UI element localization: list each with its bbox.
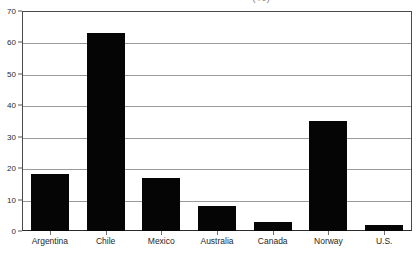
x-tick-mark (161, 231, 162, 235)
bar-chart-figure: (%) 010203040506070 ArgentinaChileMexico… (0, 0, 416, 259)
x-tick-mark (273, 231, 274, 235)
bar (198, 206, 236, 231)
bar-slot (189, 11, 245, 231)
bar (87, 33, 125, 231)
x-axis: ArgentinaChileMexicoAustraliaCanadaNorwa… (22, 236, 412, 256)
bar (309, 121, 347, 231)
bar (31, 174, 69, 231)
x-tick-label: Norway (314, 236, 343, 246)
bar-slot (356, 11, 412, 231)
x-tick-label: Canada (258, 236, 288, 246)
bar (254, 222, 292, 231)
x-tick-label: Chile (96, 236, 115, 246)
x-tick-mark (384, 231, 385, 235)
bar-slot (22, 11, 78, 231)
y-axis: 010203040506070 (0, 11, 22, 231)
y-tick-label: 30 (7, 132, 16, 141)
y-tick-label: 10 (7, 195, 16, 204)
bar-slot (301, 11, 357, 231)
y-tick-label: 70 (7, 7, 16, 16)
y-tick-label: 40 (7, 101, 16, 110)
y-tick-label: 20 (7, 164, 16, 173)
x-tick-label: Mexico (148, 236, 175, 246)
bar-slot (245, 11, 301, 231)
x-tick-label: Australia (200, 236, 233, 246)
y-tick-label: 50 (7, 69, 16, 78)
x-tick-label: Argentina (32, 236, 68, 246)
bar-slot (78, 11, 134, 231)
chart-title-clipped: (%) (252, 0, 372, 3)
x-tick-mark (106, 231, 107, 235)
x-tick-label: U.S. (376, 236, 393, 246)
bars-layer (22, 11, 412, 231)
bar (142, 178, 180, 231)
x-tick-mark (217, 231, 218, 235)
bar-slot (133, 11, 189, 231)
x-tick-mark (50, 231, 51, 235)
y-tick-label: 60 (7, 38, 16, 47)
y-tick-label: 0 (12, 227, 16, 236)
x-tick-mark (328, 231, 329, 235)
